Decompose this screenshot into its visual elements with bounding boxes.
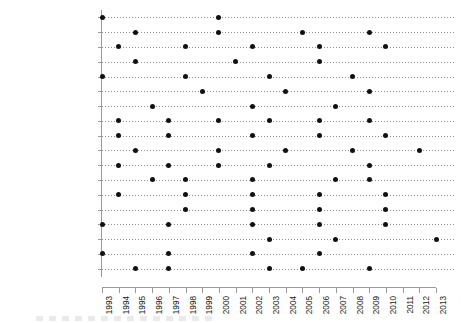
y-axis-tick bbox=[98, 239, 102, 240]
x-axis-label-1993: 1993 bbox=[105, 296, 114, 314]
x-axis-label-2000: 2000 bbox=[222, 296, 231, 314]
data-point bbox=[216, 30, 221, 35]
data-point bbox=[116, 118, 121, 123]
data-point bbox=[233, 59, 238, 64]
data-point bbox=[250, 177, 255, 182]
x-axis-label-2004: 2004 bbox=[289, 296, 298, 314]
data-point bbox=[133, 30, 138, 35]
x-axis-tick bbox=[353, 288, 354, 293]
y-axis-tick bbox=[98, 195, 102, 196]
data-point bbox=[317, 251, 322, 256]
y-axis-tick bbox=[98, 62, 102, 63]
data-point bbox=[166, 222, 171, 227]
x-axis-tick bbox=[269, 288, 270, 293]
row-gridline bbox=[102, 150, 456, 151]
data-point bbox=[350, 74, 355, 79]
plot-area: VenezuelaUruguayDominican RepublicPeruPa… bbox=[102, 10, 436, 276]
x-axis-tick bbox=[319, 288, 320, 293]
dot-plot-chart: VenezuelaUruguayDominican RepublicPeruPa… bbox=[0, 0, 461, 323]
x-axis-tick bbox=[252, 288, 253, 293]
data-point bbox=[100, 222, 105, 227]
data-point bbox=[333, 104, 338, 109]
data-point bbox=[267, 237, 272, 242]
row-gridline bbox=[102, 224, 456, 225]
data-point bbox=[367, 89, 372, 94]
x-axis-label-1995: 1995 bbox=[138, 296, 147, 314]
row-gridline bbox=[102, 121, 456, 122]
row-gridline bbox=[102, 136, 456, 137]
data-point bbox=[166, 133, 171, 138]
data-point bbox=[183, 74, 188, 79]
row-gridline bbox=[102, 47, 456, 48]
x-axis-tick bbox=[152, 288, 153, 293]
data-point bbox=[216, 163, 221, 168]
data-point bbox=[166, 163, 171, 168]
y-axis-tick bbox=[98, 269, 102, 270]
x-axis-label-2012: 2012 bbox=[422, 296, 431, 314]
x-axis-label-2013: 2013 bbox=[439, 296, 448, 314]
row-gridline bbox=[102, 195, 456, 196]
data-point bbox=[250, 251, 255, 256]
data-point bbox=[250, 192, 255, 197]
data-point bbox=[367, 118, 372, 123]
x-axis-label-2002: 2002 bbox=[255, 296, 264, 314]
data-point bbox=[216, 118, 221, 123]
row-gridline bbox=[102, 254, 456, 255]
data-point bbox=[267, 118, 272, 123]
x-axis-label-1994: 1994 bbox=[122, 296, 131, 314]
data-point bbox=[317, 133, 322, 138]
data-point bbox=[283, 148, 288, 153]
data-point bbox=[383, 192, 388, 197]
x-axis-tick bbox=[436, 288, 437, 293]
y-axis-tick bbox=[98, 180, 102, 181]
data-point bbox=[250, 222, 255, 227]
data-point bbox=[116, 44, 121, 49]
data-point bbox=[383, 222, 388, 227]
data-point bbox=[317, 192, 322, 197]
row-gridline bbox=[102, 180, 456, 181]
data-point bbox=[133, 148, 138, 153]
data-point bbox=[300, 30, 305, 35]
data-point bbox=[300, 266, 305, 271]
y-axis-tick bbox=[98, 47, 102, 48]
data-point bbox=[267, 74, 272, 79]
x-axis-tick bbox=[219, 288, 220, 293]
data-point bbox=[434, 237, 439, 242]
row-gridline bbox=[102, 106, 456, 107]
data-point bbox=[383, 44, 388, 49]
data-point bbox=[150, 104, 155, 109]
data-point bbox=[367, 163, 372, 168]
x-axis-tick bbox=[119, 288, 120, 293]
x-axis-label-2007: 2007 bbox=[339, 296, 348, 314]
data-point bbox=[200, 89, 205, 94]
x-axis-tick bbox=[135, 288, 136, 293]
x-axis-tick bbox=[186, 288, 187, 293]
data-point bbox=[367, 177, 372, 182]
data-point bbox=[183, 44, 188, 49]
x-axis-label-1999: 1999 bbox=[205, 296, 214, 314]
x-axis-tick bbox=[419, 288, 420, 293]
y-axis-tick bbox=[98, 106, 102, 107]
x-axis-label-2005: 2005 bbox=[305, 296, 314, 314]
y-axis-tick bbox=[98, 136, 102, 137]
x-axis-tick bbox=[336, 288, 337, 293]
data-point bbox=[317, 222, 322, 227]
data-point bbox=[133, 266, 138, 271]
data-point bbox=[216, 15, 221, 20]
row-gridline bbox=[102, 32, 456, 33]
x-axis-label-2001: 2001 bbox=[239, 296, 248, 314]
data-point bbox=[250, 44, 255, 49]
data-point bbox=[283, 89, 288, 94]
data-point bbox=[166, 251, 171, 256]
data-point bbox=[133, 59, 138, 64]
data-point bbox=[383, 207, 388, 212]
x-axis-tick bbox=[202, 288, 203, 293]
data-point bbox=[333, 177, 338, 182]
data-point bbox=[267, 266, 272, 271]
data-point bbox=[100, 15, 105, 20]
data-point bbox=[317, 207, 322, 212]
data-point bbox=[250, 104, 255, 109]
x-axis-tick bbox=[102, 288, 103, 293]
x-axis-tick bbox=[386, 288, 387, 293]
x-axis-tick bbox=[169, 288, 170, 293]
